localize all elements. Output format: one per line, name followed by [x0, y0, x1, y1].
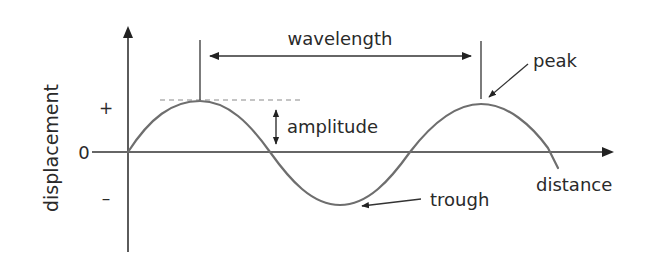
trough-pointer-arrow [362, 199, 421, 206]
peak-pointer-arrow [489, 64, 528, 97]
y-axis-label: displacement [40, 84, 62, 212]
y-axis-arrowhead-icon [123, 26, 133, 38]
x-axis-label: distance [536, 174, 612, 195]
y-tick-minus: – [102, 188, 111, 208]
amplitude-label: amplitude [287, 116, 378, 137]
wave-diagram: + 0 – displacement distance wavelength a… [0, 0, 656, 266]
peak-label: peak [533, 50, 578, 71]
wavelength-label: wavelength [288, 28, 393, 49]
y-tick-plus: + [99, 98, 113, 118]
x-axis [92, 147, 614, 157]
trough-label: trough [430, 189, 489, 210]
y-tick-zero: 0 [78, 142, 89, 163]
x-axis-arrowhead-icon [602, 147, 614, 157]
y-axis [123, 26, 133, 252]
wavelength-indicator [200, 40, 481, 100]
